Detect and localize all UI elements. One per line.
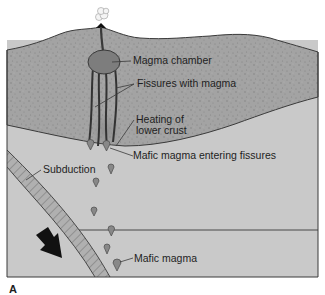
label-fissures-with-magma: Fissures with magma	[137, 77, 236, 89]
label-magma-chamber: Magma chamber	[133, 54, 212, 66]
label-heating-line2: lower crust	[136, 124, 187, 136]
volcanic-diagram: Magma chamber Fissures with magma Heatin…	[0, 0, 325, 295]
eruption-plume	[96, 8, 109, 21]
label-subduction: Subduction	[43, 163, 96, 175]
label-mafic-magma: Mafic magma	[134, 252, 197, 264]
label-mafic-magma-entering: Mafic magma entering fissures	[133, 149, 276, 161]
panel-label: A	[9, 283, 17, 295]
